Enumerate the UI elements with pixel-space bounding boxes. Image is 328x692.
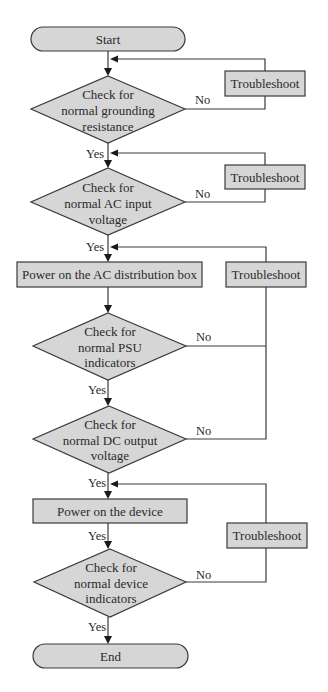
troubleshoot-3-label: Troubleshoot <box>232 267 301 282</box>
decision-grounding-line-1: Check for <box>82 87 134 102</box>
yes-label-6: Yes <box>88 620 106 634</box>
decision-grounding-line-2: normal grounding <box>61 103 155 118</box>
decision-device-line-2: normal device <box>74 576 148 591</box>
process-power-device: Power on the device <box>33 499 187 523</box>
power-device-label: Power on the device <box>57 504 163 519</box>
troubleshoot-box-1: Troubleshoot <box>225 71 305 96</box>
yes-label-4: Yes <box>88 476 106 490</box>
end-node: End <box>33 644 188 668</box>
decision-ac-input-line-1: Check for <box>82 180 134 195</box>
decision-device-line-3: indicators <box>85 591 136 606</box>
troubleshoot-box-2: Troubleshoot <box>225 165 305 189</box>
troubleshoot-box-3: Troubleshoot <box>226 262 306 287</box>
decision-dc-output-line-1: Check for <box>84 417 136 432</box>
no-label-3: No <box>196 330 211 344</box>
decision-grounding: Check for normal grounding resistance <box>31 76 185 143</box>
decision-ac-input-line-2: normal AC input <box>64 196 152 211</box>
yes-label-1: Yes <box>86 147 104 161</box>
decision-device-indicators: Check for normal device indicators <box>34 549 186 617</box>
end-label: End <box>100 649 121 664</box>
decision-psu-line-3: indicators <box>84 355 135 370</box>
flowchart: Start Check for normal grounding resista… <box>0 0 328 692</box>
decision-psu-line-2: normal PSU <box>78 340 143 355</box>
yes-label-2: Yes <box>86 240 104 254</box>
decision-psu-line-1: Check for <box>84 324 136 339</box>
no-label-5: No <box>196 568 211 582</box>
decision-device-line-1: Check for <box>85 560 137 575</box>
decision-psu: Check for normal PSU indicators <box>33 313 186 380</box>
no-label-1: No <box>195 93 210 107</box>
troubleshoot-1-label: Troubleshoot <box>231 76 300 91</box>
start-node: Start <box>31 27 185 51</box>
yes-label-5: Yes <box>88 529 106 543</box>
process-power-ac-box: Power on the AC distribution box <box>17 262 202 287</box>
no-label-2: No <box>195 187 210 201</box>
yes-label-3: Yes <box>88 383 106 397</box>
decision-dc-output-line-2: normal DC output <box>63 433 158 448</box>
decision-grounding-line-3: resistance <box>82 119 133 134</box>
decision-dc-output-line-3: voltage <box>91 448 129 463</box>
decision-ac-input-line-3: voltage <box>89 212 127 227</box>
troubleshoot-4-label: Troubleshoot <box>233 528 302 543</box>
troubleshoot-box-4: Troubleshoot <box>227 523 307 548</box>
power-ac-box-label: Power on the AC distribution box <box>22 267 198 282</box>
start-label: Start <box>96 32 121 47</box>
decision-ac-input: Check for normal AC input voltage <box>31 168 185 235</box>
troubleshoot-2-label: Troubleshoot <box>231 170 300 185</box>
decision-dc-output: Check for normal DC output voltage <box>33 406 186 473</box>
no-label-4: No <box>196 424 211 438</box>
